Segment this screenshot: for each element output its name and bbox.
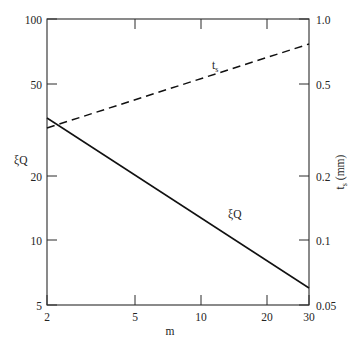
right-ticklabel-0-05: 0.05 [316,300,336,312]
x-ticklabel-20: 20 [261,311,273,323]
right-ticklabel-0-5: 0.5 [316,79,331,91]
annotation-ts: ts [212,59,218,74]
annotation-ts-sub: s [215,65,218,74]
left-axis-label: ξQ [14,154,28,167]
bottom-axis-ticks [47,295,309,305]
x-ticklabel-5: 5 [132,311,138,323]
log-log-chart: 100 50 20 10 5 1.0 0.5 0.2 0.1 0.05 2 5 … [0,0,359,350]
left-ticklabel-20: 20 [31,171,43,183]
right-ticklabel-1-0: 1.0 [316,14,331,26]
left-ticklabel-10: 10 [31,235,43,247]
x-ticklabel-30: 30 [303,311,315,323]
right-axis-label-group: ts (mm) [334,154,349,189]
series-ts-line [47,44,309,128]
left-axis-ticks [47,19,57,305]
x-axis-label: m [166,325,175,337]
left-ticklabel-100: 100 [25,14,43,26]
right-axis-label: ts (mm) [334,154,349,189]
series-xi-q-line [47,118,309,288]
right-axis-ticks [299,19,309,305]
annotation-xi-q: ξQ [228,208,242,221]
right-ticklabel-0-1: 0.1 [316,235,331,247]
right-ticklabel-0-2: 0.2 [316,171,331,183]
left-ticklabel-50: 50 [31,79,43,91]
right-axis-label-units: (mm) [334,154,347,183]
figure-container: 100 50 20 10 5 1.0 0.5 0.2 0.1 0.05 2 5 … [0,0,359,350]
left-ticklabel-5: 5 [36,300,42,312]
top-axis-ticks [135,19,267,29]
x-ticklabel-2: 2 [44,311,50,323]
x-ticklabel-10: 10 [195,311,207,323]
